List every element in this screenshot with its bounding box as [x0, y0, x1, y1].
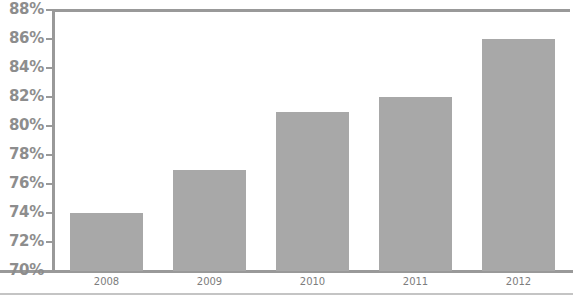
- bar[interactable]: [173, 170, 247, 272]
- bar[interactable]: [276, 112, 350, 272]
- bar-series: [0, 0, 573, 272]
- x-axis-category-label: 2011: [364, 277, 467, 287]
- chart-root: 88%86%84%82%80%78%76%74%72%70% 200820092…: [0, 0, 573, 302]
- x-axis-category-label: 2008: [55, 277, 158, 287]
- x-axis-category-label: 2009: [158, 277, 261, 287]
- chart-bottom-border: [0, 293, 573, 295]
- bar[interactable]: [482, 39, 556, 271]
- bar[interactable]: [379, 97, 453, 271]
- x-axis-category-label: 2012: [467, 277, 570, 287]
- bar[interactable]: [70, 213, 144, 271]
- x-axis-category-label: 2010: [261, 277, 364, 287]
